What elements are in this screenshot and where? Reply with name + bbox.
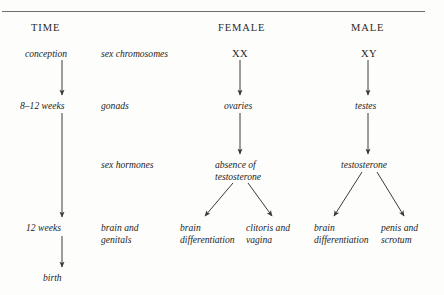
male-outcome-right-line1: penis and bbox=[381, 222, 418, 233]
female-outcome-right-line2: vagina bbox=[246, 234, 272, 245]
column-header-time: TIME bbox=[31, 22, 60, 33]
arrow-female-hormone-to-clitoris-vagina bbox=[248, 183, 272, 216]
column-header-male: MALE bbox=[351, 22, 384, 33]
time-node-conception: conception bbox=[25, 48, 67, 60]
process-node-brain-and-genitals: brain and genitals bbox=[101, 222, 139, 245]
male-outcome-left-line2: differentiation bbox=[314, 234, 369, 245]
arrow-layer bbox=[0, 0, 444, 295]
female-outcome-brain-differentiation: brain differentiation bbox=[180, 222, 235, 245]
arrow-testosterone-to-brain-differentiation bbox=[334, 172, 362, 216]
male-outcome-brain-differentiation: brain differentiation bbox=[314, 222, 369, 245]
female-hormone-line2: testosterone bbox=[215, 171, 261, 182]
header-divider-rule bbox=[2, 11, 425, 12]
female-node-absence-of-testosterone: absence of testosterone bbox=[215, 159, 261, 182]
process-node-sex-hormones: sex hormones bbox=[101, 159, 154, 171]
time-node-8-12-weeks: 8–12 weeks bbox=[20, 100, 65, 112]
time-node-12-weeks: 12 weeks bbox=[26, 222, 61, 234]
process-node-gonads: gonads bbox=[101, 100, 129, 112]
process-node-brain-and-genitals-line1: brain and bbox=[101, 222, 139, 233]
female-outcome-left-line2: differentiation bbox=[180, 234, 235, 245]
diagram-canvas: · · TIME FEMALE MALE conception 8–12 wee… bbox=[0, 0, 444, 295]
column-header-female: FEMALE bbox=[218, 22, 265, 33]
time-node-birth: birth bbox=[43, 272, 62, 284]
female-hormone-line1: absence of bbox=[215, 159, 256, 170]
process-node-sex-chromosomes: sex chromosomes bbox=[101, 48, 168, 60]
female-outcome-left-line1: brain bbox=[180, 222, 201, 233]
female-node-ovaries: ovaries bbox=[224, 100, 252, 112]
female-node-chromosomes-xx: XX bbox=[232, 48, 248, 60]
male-outcome-right-line2: scrotum bbox=[381, 234, 412, 245]
cut-off-text-remnant: · · bbox=[66, 0, 82, 2]
arrow-female-hormone-to-brain-differentiation bbox=[205, 183, 233, 216]
arrow-testosterone-to-penis-scrotum bbox=[377, 172, 404, 216]
process-node-brain-and-genitals-line2: genitals bbox=[101, 234, 131, 245]
female-outcome-clitoris-and-vagina: clitoris and vagina bbox=[246, 222, 290, 245]
female-outcome-right-line1: clitoris and bbox=[246, 222, 290, 233]
male-outcome-left-line1: brain bbox=[314, 222, 335, 233]
male-node-chromosomes-xy: XY bbox=[361, 48, 377, 60]
male-node-testes: testes bbox=[355, 100, 376, 112]
male-outcome-penis-and-scrotum: penis and scrotum bbox=[381, 222, 418, 245]
male-node-testosterone: testosterone bbox=[341, 159, 387, 171]
